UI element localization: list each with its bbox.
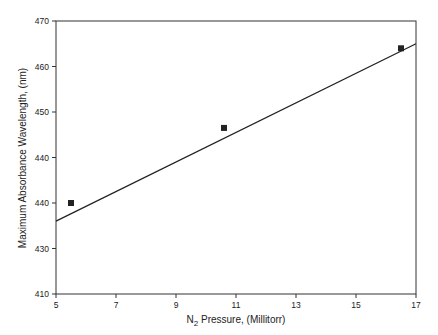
y-tick-label: 440 (35, 153, 49, 163)
data-series (56, 44, 416, 221)
data-point-marker (221, 125, 227, 131)
x-tick-label: 17 (411, 300, 421, 310)
x-tick-label: 5 (54, 300, 59, 310)
data-point-marker (68, 200, 74, 206)
x-tick-label: 9 (174, 300, 179, 310)
y-tick-label: 460 (35, 62, 49, 72)
x-tick-label: 7 (114, 300, 119, 310)
y-tick-label: 450 (35, 107, 49, 117)
y-axis-ticks: 410430440440450460470 (35, 16, 56, 299)
chart: 410430440440450460470 57911131517 Maximu… (0, 0, 438, 335)
x-tick-label: 11 (232, 300, 241, 310)
x-axis-ticks: 57911131517 (54, 294, 421, 310)
plot-border (56, 21, 416, 294)
y-tick-label: 410 (35, 289, 49, 299)
y-axis-title: Maximum Absorbance Wavelength, (nm) (17, 68, 28, 248)
x-tick-label: 13 (291, 300, 301, 310)
x-tick-label: 15 (351, 300, 361, 310)
y-tick-label: 470 (35, 16, 49, 26)
y-tick-label: 430 (35, 244, 49, 254)
plot-frame (56, 21, 416, 294)
fit-line (56, 44, 416, 221)
y-tick-label: 440 (35, 198, 49, 208)
x-axis-title: N2 Pressure, (Millitorr) (187, 314, 286, 328)
